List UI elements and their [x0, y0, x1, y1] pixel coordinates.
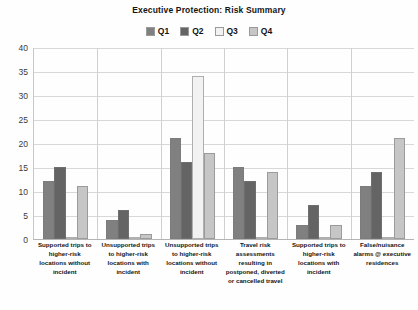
plot-wrapper: 4035302520151050 — [0, 48, 418, 240]
legend-item-q3[interactable]: Q3 — [215, 27, 238, 36]
bar-fill — [330, 225, 341, 239]
bar-fill — [77, 186, 88, 239]
legend-label: Q4 — [261, 27, 272, 36]
bar-group — [34, 48, 97, 239]
y-axis-tick-label: 30 — [19, 91, 28, 101]
bar-q4[interactable] — [140, 48, 151, 239]
bar-group — [224, 48, 287, 239]
bar-q1[interactable] — [360, 48, 371, 239]
y-axis-tick-label: 0 — [23, 235, 28, 245]
bar-fill — [66, 237, 77, 239]
bar-fill — [244, 181, 255, 239]
legend-swatch-icon — [215, 27, 224, 36]
bar-q1[interactable] — [296, 48, 307, 239]
bar-q2[interactable] — [118, 48, 129, 239]
chart-title: Executive Protection: Risk Summary — [0, 5, 418, 15]
bar-fill — [382, 237, 393, 239]
bar-fill — [319, 237, 330, 239]
bar-q4[interactable] — [267, 48, 278, 239]
y-axis-tick-label: 40 — [19, 43, 28, 53]
bar-groups — [34, 48, 414, 239]
bar-q1[interactable] — [233, 48, 244, 239]
bar-fill — [170, 138, 181, 239]
bar-fill — [54, 167, 65, 239]
legend-label: Q2 — [192, 27, 203, 36]
bar-fill — [43, 181, 54, 239]
bar-q1[interactable] — [43, 48, 54, 239]
y-axis-tick-label: 25 — [19, 115, 28, 125]
y-axis-tick-label: 20 — [19, 139, 28, 149]
bar-q4[interactable] — [394, 48, 405, 239]
x-axis-category-label: Travel risk assessments resulting in pos… — [224, 241, 288, 286]
y-axis-tick-label: 35 — [19, 67, 28, 77]
bar-q3[interactable] — [382, 48, 393, 239]
bar-group — [351, 48, 414, 239]
y-axis-tick-label: 5 — [23, 211, 28, 221]
bar-q3[interactable] — [66, 48, 77, 239]
legend-label: Q3 — [227, 27, 238, 36]
bar-q3[interactable] — [192, 48, 203, 239]
bar-q1[interactable] — [106, 48, 117, 239]
legend-swatch-icon — [180, 27, 189, 36]
bar-q3[interactable] — [319, 48, 330, 239]
bar-fill — [192, 76, 203, 239]
y-axis-tick-label: 15 — [19, 163, 28, 173]
x-axis-category-label: Supported trips to higher-risk locations… — [33, 241, 97, 286]
bar-fill — [308, 205, 319, 239]
bar-q4[interactable] — [330, 48, 341, 239]
legend-label: Q1 — [158, 27, 169, 36]
bar-fill — [256, 237, 267, 239]
bar-group — [161, 48, 224, 239]
legend-item-q1[interactable]: Q1 — [146, 27, 169, 36]
plot-area — [33, 48, 414, 240]
bar-q2[interactable] — [181, 48, 192, 239]
bar-fill — [360, 186, 371, 239]
bar-fill — [371, 172, 382, 239]
bar-q2[interactable] — [54, 48, 65, 239]
bar-group — [287, 48, 350, 239]
bar-q4[interactable] — [77, 48, 88, 239]
bar-fill — [118, 210, 129, 239]
chart-legend: Q1Q2Q3Q4 — [0, 27, 418, 36]
bar-q3[interactable] — [256, 48, 267, 239]
legend-item-q2[interactable]: Q2 — [180, 27, 203, 36]
bar-q3[interactable] — [129, 48, 140, 239]
legend-swatch-icon — [249, 27, 258, 36]
x-axis-category-label: False/nuisance alarms @ executive reside… — [351, 241, 415, 286]
bar-fill — [394, 138, 405, 239]
bar-fill — [267, 172, 278, 239]
chart-container: Executive Protection: Risk Summary Q1Q2Q… — [0, 0, 418, 310]
bar-fill — [129, 237, 140, 239]
bar-q1[interactable] — [170, 48, 181, 239]
x-axis-labels: Supported trips to higher-risk locations… — [33, 241, 414, 286]
bar-fill — [204, 153, 215, 239]
bar-fill — [296, 225, 307, 239]
bar-q4[interactable] — [204, 48, 215, 239]
bar-q2[interactable] — [371, 48, 382, 239]
y-axis-tick-label: 10 — [19, 187, 28, 197]
bar-fill — [233, 167, 244, 239]
y-axis: 4035302520151050 — [0, 48, 33, 240]
legend-swatch-icon — [146, 27, 155, 36]
x-axis-category-label: Unsupported trips to higher-risk locatio… — [97, 241, 161, 286]
legend-item-q4[interactable]: Q4 — [249, 27, 272, 36]
bar-fill — [140, 234, 151, 239]
bar-fill — [106, 220, 117, 239]
x-axis-category-label: Supported trips to higher-risk locations… — [287, 241, 351, 286]
x-axis-category-label: Unsupported trips to higher-risk locatio… — [160, 241, 224, 286]
bar-group — [97, 48, 160, 239]
bar-fill — [181, 162, 192, 239]
bar-q2[interactable] — [244, 48, 255, 239]
bar-q2[interactable] — [308, 48, 319, 239]
